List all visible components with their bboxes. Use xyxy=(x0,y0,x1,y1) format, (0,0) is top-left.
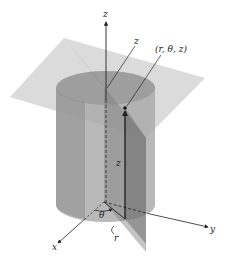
cylindrical-coordinates-diagram: z z (r, θ, z) z θ r x y xyxy=(0,0,226,265)
z-height-label: z xyxy=(115,158,121,168)
point-marker xyxy=(123,106,127,110)
z-pointer-label: z xyxy=(133,36,139,46)
y-axis xyxy=(150,214,208,227)
point-label: (r, θ, z) xyxy=(155,44,187,54)
y-axis-label: y xyxy=(209,224,216,234)
x-axis-label: x xyxy=(52,242,57,252)
theta-label: θ xyxy=(99,210,105,220)
z-axis-label: z xyxy=(102,9,108,19)
x-axis xyxy=(58,218,86,243)
r-label: r xyxy=(114,233,119,243)
cylinder-shade xyxy=(56,88,85,219)
